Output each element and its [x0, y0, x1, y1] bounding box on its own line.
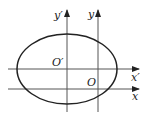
x-prime-label: x′: [131, 72, 140, 83]
o-label: O: [87, 77, 96, 88]
o-prime-label: O′: [52, 57, 64, 68]
diagram-canvas: [0, 0, 150, 125]
y-label: y: [88, 9, 94, 20]
x-label: x: [132, 91, 138, 102]
y-prime-label: y′: [54, 10, 63, 21]
